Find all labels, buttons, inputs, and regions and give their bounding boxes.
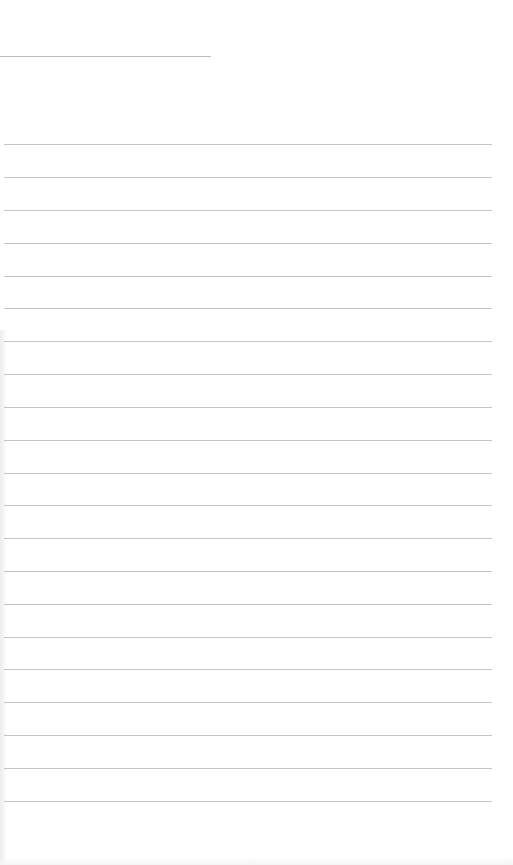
ruled-line	[4, 374, 492, 375]
ruled-line	[4, 308, 492, 309]
ruled-line	[4, 243, 492, 244]
ruled-line	[4, 341, 492, 342]
ruled-line	[4, 440, 492, 441]
ruled-line	[4, 505, 492, 506]
ruled-line	[4, 177, 492, 178]
ruled-line	[4, 571, 492, 572]
ruled-line	[4, 276, 492, 277]
ruled-line	[4, 604, 492, 605]
ruled-line	[4, 702, 492, 703]
page-edge-shadow	[0, 330, 7, 865]
ruled-line	[4, 768, 492, 769]
ruled-line	[4, 538, 492, 539]
bottom-bleed-through	[0, 857, 513, 865]
ruled-line	[4, 801, 492, 802]
lined-paper-page	[0, 0, 513, 865]
header-rule-line	[0, 56, 211, 57]
ruled-line	[4, 210, 492, 211]
ruled-line	[4, 407, 492, 408]
ruled-line	[4, 637, 492, 638]
ruled-line	[4, 735, 492, 736]
ruled-line	[4, 669, 492, 670]
ruled-line	[4, 144, 492, 145]
ruled-line	[4, 473, 492, 474]
